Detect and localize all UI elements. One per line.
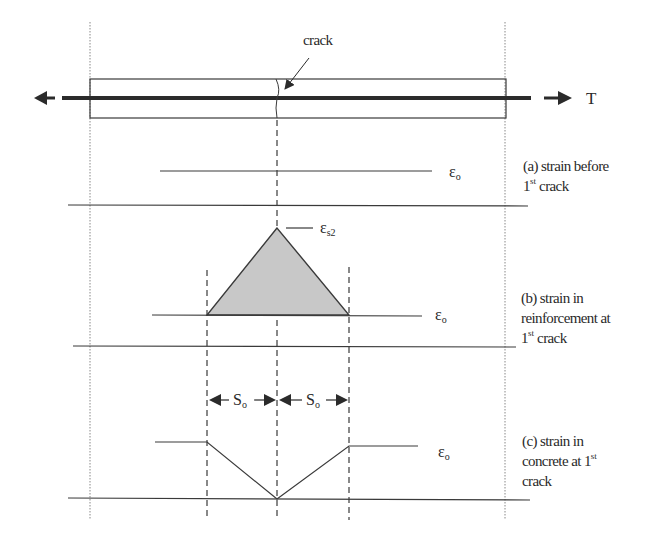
baseline-b [73, 346, 516, 347]
epsilon-o-a: εo [449, 163, 461, 181]
reinforcement-strain-triangle [207, 228, 349, 315]
epsilon-s2: εs2 [320, 219, 336, 237]
baseline-c [68, 498, 530, 500]
panel-c-caption: (c) strain in concrete at 1st crack [522, 431, 597, 491]
crack-pointer-arrow [285, 58, 309, 89]
crack-label: crack [303, 30, 332, 50]
panel-a-caption: (a) strain before 1st crack [523, 156, 609, 196]
force-label: T [586, 89, 596, 109]
spacing-label-left: So [233, 391, 247, 409]
concrete-strain-profile [155, 442, 418, 499]
epsilon-o-b: εo [435, 306, 447, 324]
epsilon-o-c: εo [438, 443, 450, 461]
panel-b-caption: (b) strain in reinforcement at 1st crack [521, 288, 610, 348]
baseline-a [68, 205, 528, 206]
spacing-label-right: So [306, 391, 320, 409]
left-tension-arrow [34, 91, 55, 105]
strain-b-line [152, 315, 422, 316]
right-tension-arrow [544, 91, 572, 105]
